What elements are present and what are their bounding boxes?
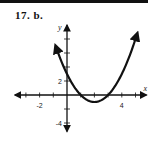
y-tick-label: -4 (56, 120, 62, 127)
parabola-curve (56, 35, 137, 102)
tick-labels: -242-4 (36, 78, 123, 127)
parabola-chart: -242-4 x y (0, 0, 155, 167)
y-tick-label: 2 (58, 78, 62, 85)
x-tick-label: 4 (120, 102, 124, 109)
x-tick-label: -2 (36, 102, 42, 109)
x-axis-label: x (142, 84, 147, 93)
axes (15, 25, 147, 131)
y-axis-label: y (57, 23, 62, 32)
